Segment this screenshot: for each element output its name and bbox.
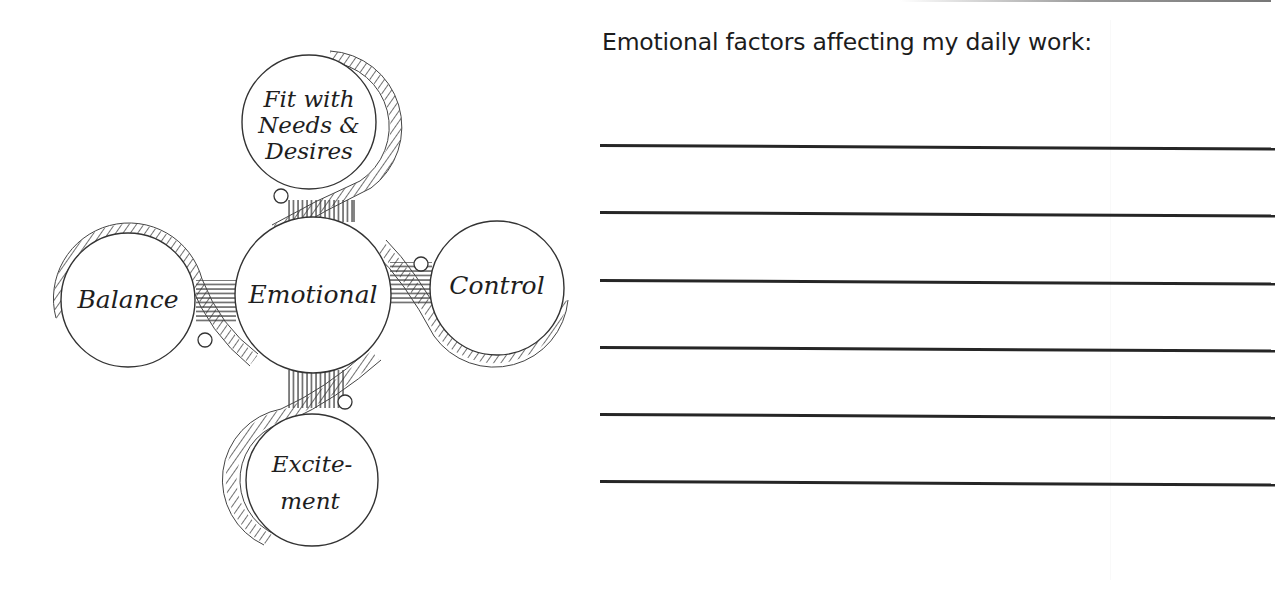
node-label-fit-line-1: Fit with bbox=[263, 86, 355, 112]
node-label-excitement-line-1: Excite- bbox=[271, 451, 353, 477]
node-label-emotional: Emotional bbox=[247, 280, 377, 309]
node-label-control: Control bbox=[449, 271, 544, 300]
answer-line-4[interactable] bbox=[600, 346, 1275, 352]
node-label-balance: Balance bbox=[76, 285, 178, 314]
node-label-fit-line-3: Desires bbox=[264, 138, 353, 164]
node-excitement bbox=[246, 414, 378, 546]
worksheet-prompt: Emotional factors affecting my daily wor… bbox=[602, 28, 1092, 56]
answer-line-2[interactable] bbox=[600, 211, 1275, 217]
node-label-fit-line-2: Needs & bbox=[257, 112, 360, 138]
worksheet: Emotional factors affecting my daily wor… bbox=[600, 0, 1271, 589]
answer-line-3[interactable] bbox=[600, 279, 1275, 285]
answer-line-5[interactable] bbox=[600, 413, 1275, 419]
emotional-factors-diagram: Fit with Needs & Desires Balance Control… bbox=[0, 0, 600, 589]
answer-line-1[interactable] bbox=[600, 144, 1275, 150]
answer-line-6[interactable] bbox=[600, 480, 1275, 486]
node-label-excitement-line-2: ment bbox=[280, 488, 340, 514]
